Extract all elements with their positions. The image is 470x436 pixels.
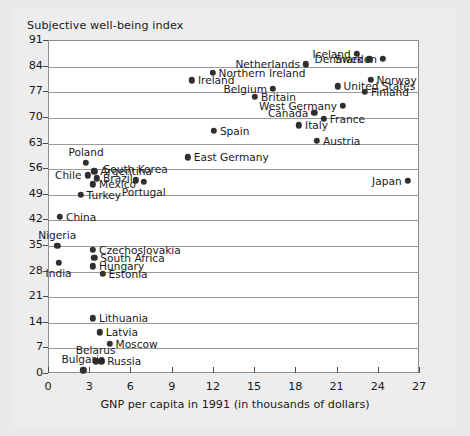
x-tick-mark xyxy=(89,367,90,373)
gridline xyxy=(49,144,418,145)
data-point-label: Finland xyxy=(371,86,409,97)
data-point[interactable] xyxy=(90,246,96,252)
x-tick-label: 3 xyxy=(86,380,93,393)
data-point-label: China xyxy=(66,211,96,222)
data-point[interactable] xyxy=(77,191,83,197)
data-point-label: Japan xyxy=(372,175,402,186)
data-point-label: Italy xyxy=(305,120,328,131)
data-point-label: East Germany xyxy=(194,152,269,163)
data-point-label: Russia xyxy=(107,356,141,367)
data-point[interactable] xyxy=(404,178,410,184)
data-point[interactable] xyxy=(252,93,258,99)
data-point[interactable] xyxy=(99,270,105,276)
y-axis: 07142128354249566370778491 xyxy=(0,40,43,373)
y-tick-label: 84 xyxy=(29,59,43,72)
x-tick-label: 21 xyxy=(329,380,343,393)
data-point-label: Latvia xyxy=(106,327,138,338)
x-axis: 0369121518212427 xyxy=(48,373,419,397)
chart-title: Subjective well-being index xyxy=(27,19,183,32)
x-tick-label: 27 xyxy=(412,380,426,393)
data-point-label: Austria xyxy=(323,135,360,146)
x-tick-label: 12 xyxy=(206,380,220,393)
data-point-label: Lithuania xyxy=(99,313,148,324)
data-point[interactable] xyxy=(90,315,96,321)
data-point[interactable] xyxy=(362,89,368,95)
data-point-label: Bulgaria xyxy=(61,354,105,365)
y-tick-label: 63 xyxy=(29,136,43,149)
x-tick-mark xyxy=(419,367,420,373)
data-point-label: Estonia xyxy=(109,268,148,279)
x-tick-mark xyxy=(337,367,338,373)
x-tick-label: 9 xyxy=(168,380,175,393)
x-tick-label: 24 xyxy=(371,380,385,393)
data-point-label: Spain xyxy=(220,126,250,137)
data-point[interactable] xyxy=(296,122,302,128)
y-tick-label: 21 xyxy=(29,289,43,302)
data-point[interactable] xyxy=(90,263,96,269)
x-tick-mark xyxy=(378,367,379,373)
y-tick-label: 28 xyxy=(29,264,43,277)
x-axis-title: GNP per capita in 1991 (in thousands of … xyxy=(0,398,470,411)
x-tick-mark xyxy=(254,367,255,373)
chart-figure: Subjective well-being index 071421283542… xyxy=(0,0,470,436)
data-point-label: India xyxy=(46,268,72,279)
y-tick-label: 42 xyxy=(29,212,43,225)
gridline xyxy=(49,220,418,221)
x-tick-label: 0 xyxy=(44,380,51,393)
y-tick-label: 77 xyxy=(29,84,43,97)
data-point[interactable] xyxy=(189,77,195,83)
data-point-label: Turkey xyxy=(87,189,121,200)
data-point[interactable] xyxy=(55,260,61,266)
y-tick-label: 0 xyxy=(36,366,43,379)
data-point[interactable] xyxy=(83,159,89,165)
data-point[interactable] xyxy=(91,254,97,260)
y-tick-label: 7 xyxy=(36,340,43,353)
y-tick-label: 70 xyxy=(29,110,43,123)
y-tick-label: 14 xyxy=(29,315,43,328)
y-tick-label: 56 xyxy=(29,161,43,174)
data-point-label: South Korea xyxy=(103,164,167,175)
x-tick-label: 15 xyxy=(247,380,261,393)
data-point[interactable] xyxy=(185,154,191,160)
data-point-label: Chile xyxy=(55,170,82,181)
data-point-label: Portugal xyxy=(122,187,166,198)
x-tick-label: 6 xyxy=(127,380,134,393)
data-point[interactable] xyxy=(380,55,386,61)
data-point[interactable] xyxy=(141,178,147,184)
x-tick-mark xyxy=(295,367,296,373)
data-point-label: France xyxy=(330,113,365,124)
data-point-label: Canada xyxy=(268,107,308,118)
data-point[interactable] xyxy=(90,181,96,187)
data-point[interactable] xyxy=(91,168,97,174)
x-tick-mark xyxy=(213,367,214,373)
data-point-label: Moscow xyxy=(116,339,158,350)
data-point-label: Denmark xyxy=(314,54,363,65)
data-point[interactable] xyxy=(57,213,63,219)
plot-area: IcelandSwedenDenmarkNetherlandsNorthern … xyxy=(48,40,419,373)
data-point[interactable] xyxy=(211,128,217,134)
x-tick-mark xyxy=(48,367,49,373)
y-tick-label: 91 xyxy=(29,33,43,46)
x-tick-mark xyxy=(130,367,131,373)
data-point-label: Poland xyxy=(68,147,103,158)
y-tick-label: 49 xyxy=(29,187,43,200)
x-tick-label: 18 xyxy=(288,380,302,393)
data-point[interactable] xyxy=(340,103,346,109)
gridline xyxy=(49,297,418,298)
data-point[interactable] xyxy=(84,172,90,178)
data-point[interactable] xyxy=(54,243,60,249)
data-point-label: Nigeria xyxy=(38,230,76,241)
x-tick-mark xyxy=(172,367,173,373)
data-point[interactable] xyxy=(311,109,317,115)
data-point[interactable] xyxy=(334,83,340,89)
data-point[interactable] xyxy=(97,329,103,335)
